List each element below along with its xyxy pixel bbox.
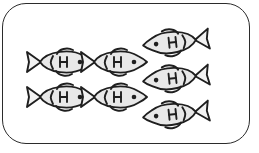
fish-icon	[137, 57, 214, 99]
fish-icon	[137, 93, 214, 135]
fish-icon	[137, 21, 214, 63]
rounded-frame-border	[2, 3, 250, 144]
image-canvas	[0, 0, 259, 153]
